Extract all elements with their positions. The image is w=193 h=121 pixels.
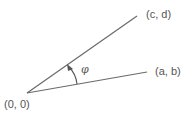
point-ab-label: (a, b)	[155, 65, 181, 77]
point-cd-label: (c, d)	[146, 8, 171, 20]
origin-label: (0, 0)	[4, 98, 30, 110]
vector-cd-line	[27, 16, 137, 93]
angle-phi-label: φ	[81, 63, 89, 76]
